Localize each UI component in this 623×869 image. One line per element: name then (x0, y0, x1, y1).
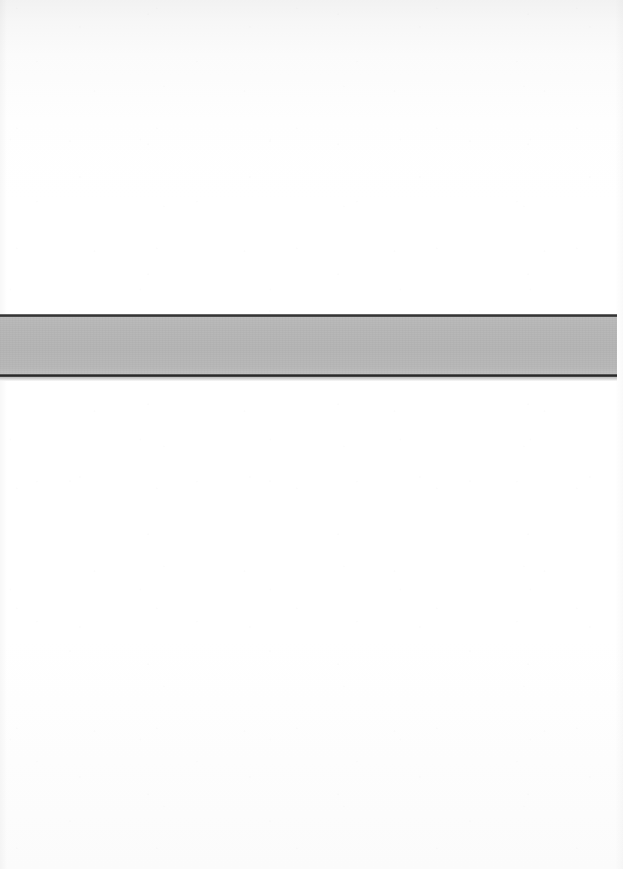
horizontal-gray-band (0, 313, 617, 381)
upper-blank-region (0, 0, 623, 313)
scanned-page: Blank scanned document page with a singl… (0, 0, 623, 869)
lower-blank-region (0, 381, 623, 869)
band-fill (0, 317, 617, 374)
